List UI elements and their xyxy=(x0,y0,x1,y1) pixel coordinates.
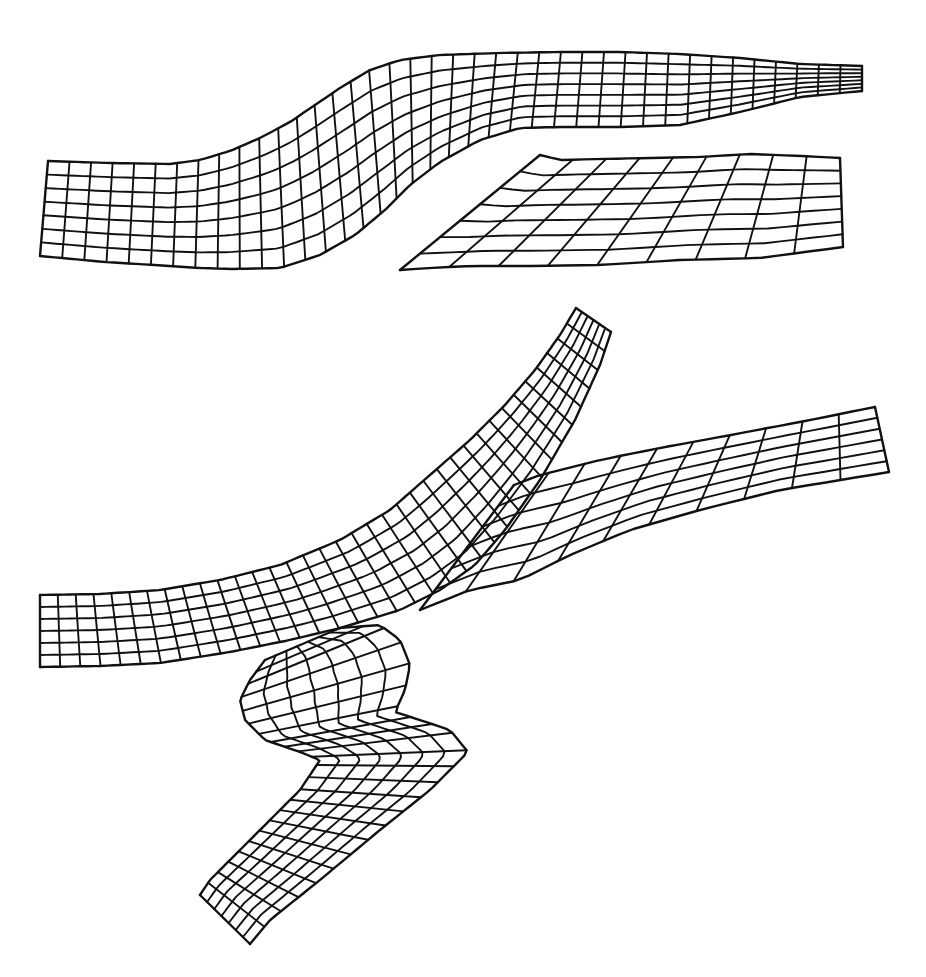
vessel-wall-boundary xyxy=(400,247,843,270)
longitudinal-grid-line xyxy=(46,73,862,193)
mesh-diagram xyxy=(0,0,926,977)
longitudinal-grid-line xyxy=(40,316,588,619)
longitudinal-grid-line xyxy=(440,222,842,238)
longitudinal-grid-line xyxy=(520,169,840,175)
mesh-patch-bulge-and-outlet xyxy=(200,625,467,944)
longitudinal-grid-line xyxy=(47,63,862,179)
mesh-patch-lower-branch xyxy=(400,154,843,270)
bottom-tortuous-bifurcation-mesh xyxy=(40,308,889,944)
top-bifurcation-mesh xyxy=(40,52,862,270)
longitudinal-grid-line xyxy=(460,209,842,222)
vessel-wall-boundary xyxy=(420,472,889,610)
longitudinal-grid-line xyxy=(480,196,841,206)
longitudinal-grid-line xyxy=(436,461,887,589)
mesh-patch-inlet-and-upper-branch xyxy=(40,308,611,667)
longitudinal-grid-line xyxy=(500,183,841,190)
longitudinal-grid-line xyxy=(43,80,862,222)
vessel-wall-boundary xyxy=(540,154,840,160)
